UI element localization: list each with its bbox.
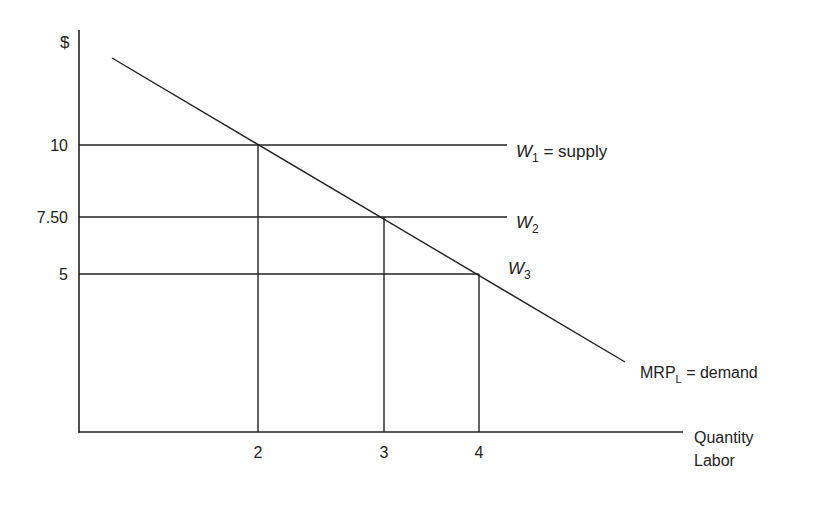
label-w2: W2 xyxy=(516,213,539,236)
y-tick-10: 10 xyxy=(50,137,68,154)
y-axis-label: $ xyxy=(60,33,70,52)
label-mrp-demand: MRPL = demand xyxy=(640,364,758,385)
y-tick-5: 5 xyxy=(59,266,68,283)
label-w1-supply: W1 = supply xyxy=(516,142,608,165)
x-tick-2: 2 xyxy=(254,444,263,461)
label-w3: W3 xyxy=(508,259,531,282)
y-tick-7-50: 7.50 xyxy=(37,209,68,226)
x-tick-4: 4 xyxy=(475,444,484,461)
x-axis-label: Quantity Labor xyxy=(694,429,758,469)
x-tick-3: 3 xyxy=(380,444,389,461)
labor-market-chart: $ 10 7.50 5 2 3 4 W1 = supply W2 W3 MRPL… xyxy=(0,0,819,507)
demand-curve xyxy=(112,58,625,362)
